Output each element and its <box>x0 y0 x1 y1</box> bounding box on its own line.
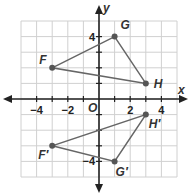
x-tick-label: 2 <box>127 104 133 116</box>
vertex-point <box>112 34 118 40</box>
vertex-label: H′ <box>149 117 162 131</box>
x-tick-label: −2 <box>62 104 75 116</box>
vertex-label: F <box>39 53 47 67</box>
vertex-point <box>143 80 149 86</box>
x-tick-label: 4 <box>158 104 165 116</box>
triangle-fgh: FGH <box>39 18 163 92</box>
x-axis-label: x <box>177 83 186 97</box>
vertex-point <box>49 143 55 149</box>
vertex-point <box>112 158 118 164</box>
vertex-label: F′ <box>38 148 49 162</box>
y-tick-label: 4 <box>89 31 96 43</box>
vertex-point <box>49 65 55 71</box>
x-tick-label: −4 <box>30 104 43 116</box>
axes: x y O <box>3 1 188 193</box>
y-tick-label: −4 <box>82 155 95 167</box>
vertex-label: G′ <box>116 165 129 179</box>
vertex-label: G <box>121 18 130 32</box>
y-axis-down-arrow-icon <box>95 184 103 193</box>
y-axis-label: y <box>102 1 111 15</box>
y-axis-up-arrow-icon <box>95 5 103 14</box>
x-axis-left-arrow-icon <box>3 95 12 103</box>
origin-label: O <box>88 101 98 115</box>
vertex-label: H <box>154 77 163 91</box>
coordinate-plane: x y O −4−2244−4 FGHF′G′H′ <box>0 0 190 195</box>
